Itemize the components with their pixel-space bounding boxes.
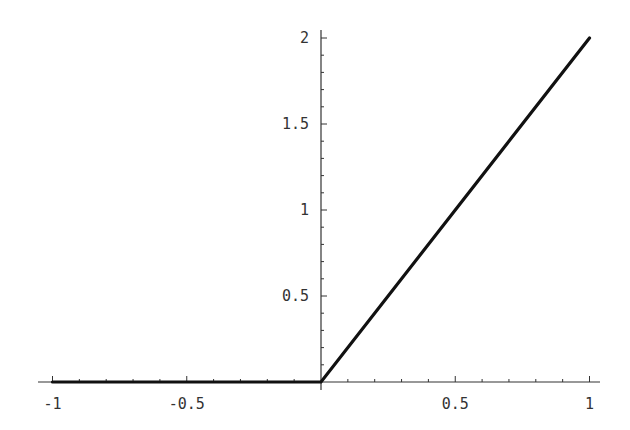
x-tick-label: 1	[585, 395, 594, 413]
y-tick-label: 1.5	[282, 115, 309, 133]
y-tick-label: 2	[300, 29, 309, 47]
axes	[38, 30, 600, 390]
x-tick-label: -1	[43, 395, 61, 413]
y-tick-label: 0.5	[282, 287, 309, 305]
x-tick-label: -0.5	[169, 395, 205, 413]
y-tick-label: 1	[300, 201, 309, 219]
line-chart: -1-0.50.510.511.52	[0, 0, 630, 430]
ticks	[53, 38, 590, 382]
tick-labels: -1-0.50.510.511.52	[43, 29, 594, 413]
x-tick-label: 0.5	[442, 395, 469, 413]
